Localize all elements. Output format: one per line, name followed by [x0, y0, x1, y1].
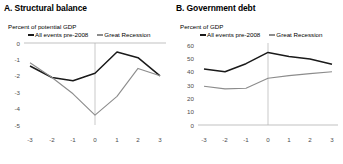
- x-tick: -3: [27, 136, 33, 143]
- y-tick: 30: [187, 82, 194, 89]
- y-tick: 40: [187, 68, 194, 75]
- panel-a-x-ticklabels: -3 -2 -1 0 1 2 3: [27, 136, 162, 143]
- x-tick: 2: [136, 136, 140, 143]
- x-tick: 3: [330, 136, 334, 143]
- panel-b-plot: 60 50 40 30 20 10 0 -3 -2 -1 0 1: [172, 0, 343, 164]
- x-tick: 3: [158, 136, 162, 143]
- panel-b-x-ticklabels: -3 -2 -1 0 1 2 3: [201, 136, 334, 143]
- y-tick: 50: [187, 55, 194, 62]
- y-tick: -1: [14, 56, 20, 63]
- x-tick: 0: [93, 136, 97, 143]
- x-tick: -1: [70, 136, 76, 143]
- panel-structural-balance: A. Structural balance Percent of potenti…: [0, 0, 171, 164]
- y-tick: 0: [17, 40, 21, 47]
- x-tick: -2: [222, 136, 228, 143]
- x-tick: 2: [308, 136, 312, 143]
- y-tick: 10: [187, 108, 194, 115]
- panel-government-debt: B. Government debt Percent of GDP All ev…: [172, 0, 343, 164]
- panel-b-svg: 60 50 40 30 20 10 0 -3 -2 -1 0 1: [172, 0, 343, 164]
- x-tick: 0: [266, 136, 270, 143]
- x-tick: 1: [287, 136, 291, 143]
- y-tick: 60: [187, 42, 194, 49]
- panel-a-plot: 0 -1 -2 -3 -4 -5 -3 -2 -1 0 1 2: [0, 0, 171, 164]
- y-tick: -2: [14, 72, 20, 79]
- panel-a-y-ticklabels: 0 -1 -2 -3 -4 -5: [14, 40, 20, 129]
- y-tick: -3: [14, 89, 20, 96]
- figure-panels: A. Structural balance Percent of potenti…: [0, 0, 343, 164]
- y-tick: 0: [191, 122, 195, 129]
- panel-a-svg: 0 -1 -2 -3 -4 -5 -3 -2 -1 0 1 2: [0, 0, 171, 164]
- x-tick: -2: [49, 136, 55, 143]
- x-tick: -1: [243, 136, 249, 143]
- y-tick: -5: [14, 122, 20, 129]
- y-tick: 20: [187, 95, 194, 102]
- x-tick: 1: [115, 136, 119, 143]
- y-tick: -4: [14, 105, 20, 112]
- panel-b-y-ticklabels: 60 50 40 30 20 10 0: [187, 42, 194, 129]
- x-tick: -3: [201, 136, 207, 143]
